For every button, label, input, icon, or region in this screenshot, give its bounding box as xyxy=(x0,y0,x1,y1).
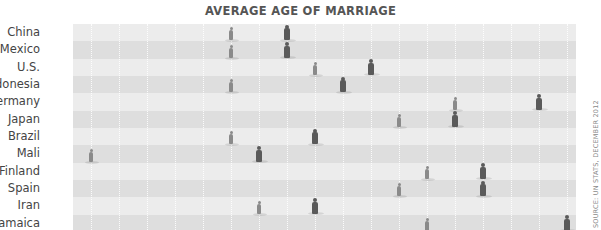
gridline xyxy=(427,24,428,230)
chart-title: AVERAGE AGE OF MARRIAGE xyxy=(0,4,601,18)
country-label: China xyxy=(0,24,40,41)
country-label: Japan xyxy=(0,111,40,128)
chart-row xyxy=(73,180,576,197)
gridline xyxy=(511,24,512,230)
country-label: Iran xyxy=(0,197,40,214)
gridline xyxy=(91,24,92,230)
country-label: Mexico xyxy=(0,41,40,58)
gridline xyxy=(539,24,540,230)
gridline xyxy=(147,24,148,230)
chart-row xyxy=(73,128,576,145)
country-label: Germany xyxy=(0,93,40,110)
country-label: Finland xyxy=(0,163,40,180)
country-label: Jamaica xyxy=(0,215,40,230)
chart-row xyxy=(73,59,576,76)
gridline xyxy=(259,24,260,230)
chart-row xyxy=(73,145,576,162)
chart-row xyxy=(73,163,576,180)
gridline xyxy=(371,24,372,230)
gridline xyxy=(175,24,176,230)
chart-row xyxy=(73,197,576,214)
gridline xyxy=(119,24,120,230)
gridline xyxy=(203,24,204,230)
chart-row xyxy=(73,215,576,230)
gridline xyxy=(343,24,344,230)
gridline xyxy=(483,24,484,230)
gridline xyxy=(567,24,568,230)
country-label: Spain xyxy=(0,180,40,197)
country-label: Mali xyxy=(0,145,40,162)
chart-row xyxy=(73,111,576,128)
chart-row xyxy=(73,76,576,93)
country-label: U.S. xyxy=(0,59,40,76)
chart-row xyxy=(73,24,576,41)
chart-row xyxy=(73,41,576,58)
source-note: SOURCE: UN STATS, DECEMBER 2012 xyxy=(592,100,600,228)
chart-row xyxy=(73,93,576,110)
country-label: Indonesia xyxy=(0,76,40,93)
plot-area: ChinaMexicoU.S.IndonesiaGermanyJapanBraz… xyxy=(73,24,576,230)
country-label: Brazil xyxy=(0,128,40,145)
